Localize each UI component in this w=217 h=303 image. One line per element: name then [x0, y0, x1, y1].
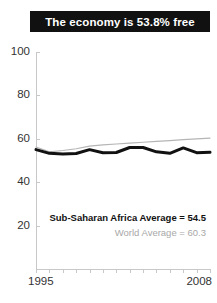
x-axis-tick-mark: [116, 269, 117, 273]
y-axis-tick-mark: [36, 95, 40, 96]
y-axis-tick-label: 40: [4, 176, 30, 187]
y-axis-line: [36, 52, 37, 270]
x-axis-tick-mark: [210, 269, 211, 273]
x-axis-tick-mark: [143, 269, 144, 273]
x-axis-tick-mark: [130, 269, 131, 273]
x-axis-tick-mark: [197, 269, 198, 273]
x-axis-tick-mark: [36, 269, 37, 273]
x-axis-tick-mark: [170, 269, 171, 273]
x-axis-end-label: 2008: [186, 275, 212, 287]
y-axis-tick-label: 60: [4, 133, 30, 144]
economic-freedom-chart: The economy is 53.8% free 20406080100 19…: [0, 0, 217, 303]
x-axis-tick-mark: [183, 269, 184, 273]
x-axis-tick-mark: [90, 269, 91, 273]
world-average-line: [36, 138, 210, 152]
y-axis-tick-label: 20: [4, 220, 30, 231]
y-axis-tick-mark: [36, 52, 40, 53]
y-axis-tick-mark: [36, 182, 40, 183]
y-axis-tick-label: 100: [4, 46, 30, 57]
x-axis-tick-mark: [156, 269, 157, 273]
x-axis-tick-mark: [76, 269, 77, 273]
x-axis-tick-mark: [63, 269, 64, 273]
y-axis-tick-mark: [36, 139, 40, 140]
x-axis-tick-mark: [103, 269, 104, 273]
x-axis-tick-mark: [49, 269, 50, 273]
world-average-annotation: World Average = 60.3: [115, 227, 206, 238]
y-axis-tick-label: 80: [4, 89, 30, 100]
y-axis-tick-mark: [36, 226, 40, 227]
x-axis-start-label: 1995: [28, 275, 54, 287]
chart-title-bar: The economy is 53.8% free: [30, 11, 210, 32]
series-layer: [0, 0, 217, 303]
region-average-annotation: Sub-Saharan Africa Average = 54.5: [49, 212, 206, 223]
page-title: The economy is 53.8% free: [45, 16, 195, 28]
sub-saharan-africa-line: [36, 147, 210, 154]
